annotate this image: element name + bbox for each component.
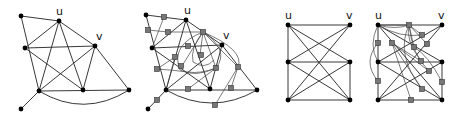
label-u: u: [375, 9, 382, 22]
vertex-v: [93, 44, 98, 49]
subdivision-vertex: [390, 41, 395, 46]
vertex: [150, 46, 155, 51]
vertex: [208, 87, 213, 92]
vertex: [286, 98, 291, 103]
vertex-u: [376, 23, 381, 28]
subdivision-vertex: [199, 53, 204, 58]
graph-2: u v: [144, 4, 260, 111]
vertex: [127, 88, 132, 93]
subdivision-vertex: [214, 66, 219, 71]
label-v: v: [438, 9, 445, 22]
subdivision-vertex: [201, 30, 206, 35]
subdivision-vertex: [409, 98, 414, 103]
subdivision-vertex: [420, 33, 425, 38]
vertex: [440, 60, 445, 65]
vertex: [440, 98, 445, 103]
vertex: [376, 60, 381, 65]
subdivision-vertex: [420, 87, 425, 92]
label-v: v: [96, 30, 103, 43]
vertex: [81, 88, 86, 93]
figure-canvas: u v: [0, 0, 463, 115]
subdivision-vertex: [419, 59, 424, 64]
vertex: [286, 60, 291, 65]
subdivision-vertex: [407, 23, 412, 28]
vertex: [255, 88, 260, 93]
vertex-v: [440, 23, 445, 28]
subdivision-vertex: [229, 86, 234, 91]
vertex: [144, 13, 149, 18]
subdivision-vertex: [440, 80, 445, 85]
vertex: [348, 98, 353, 103]
graph-1: u v: [19, 5, 132, 111]
graph-3: u v: [285, 9, 353, 102]
label-u: u: [56, 5, 63, 18]
subdivision-vertex: [376, 79, 381, 84]
subdivision-vertex: [186, 44, 191, 49]
subdivision-vertex: [213, 103, 218, 108]
subdivision-vertex: [155, 67, 160, 72]
vertex-u: [286, 23, 291, 28]
subdivision-vertex: [376, 41, 381, 46]
subdivision-vertex: [162, 15, 167, 20]
subdivision-vertex: [155, 98, 160, 103]
vertex: [164, 88, 169, 93]
subdivision-vertex: [179, 64, 184, 69]
vertex: [23, 46, 28, 51]
graph-2-edges: [146, 15, 257, 109]
label-u: u: [285, 9, 292, 22]
subdivision-vertex: [425, 42, 430, 47]
subdivision-vertex: [166, 30, 171, 35]
vertex: [348, 60, 353, 65]
subdivision-vertex: [236, 65, 241, 70]
vertex-v: [220, 43, 225, 48]
graph-3-edges: [288, 25, 350, 100]
vertex-u: [184, 18, 189, 23]
vertex-v: [348, 23, 353, 28]
vertex-u: [57, 19, 62, 24]
vertex: [19, 14, 24, 19]
subdivision-vertex: [173, 55, 178, 60]
label-u: u: [184, 4, 191, 17]
vertex: [19, 107, 24, 112]
label-v: v: [223, 29, 230, 42]
graph-4-edges: [370, 25, 442, 100]
vertex: [146, 107, 151, 112]
graph-4: u v: [370, 9, 445, 103]
subdivision-vertex: [146, 28, 151, 33]
vertex: [37, 89, 42, 94]
subdivision-vertex: [186, 87, 191, 92]
subdivision-vertex: [412, 45, 417, 50]
graph-1-edges: [21, 16, 129, 109]
subdivision-vertex: [427, 69, 432, 74]
vertex: [376, 98, 381, 103]
label-v: v: [346, 9, 353, 22]
